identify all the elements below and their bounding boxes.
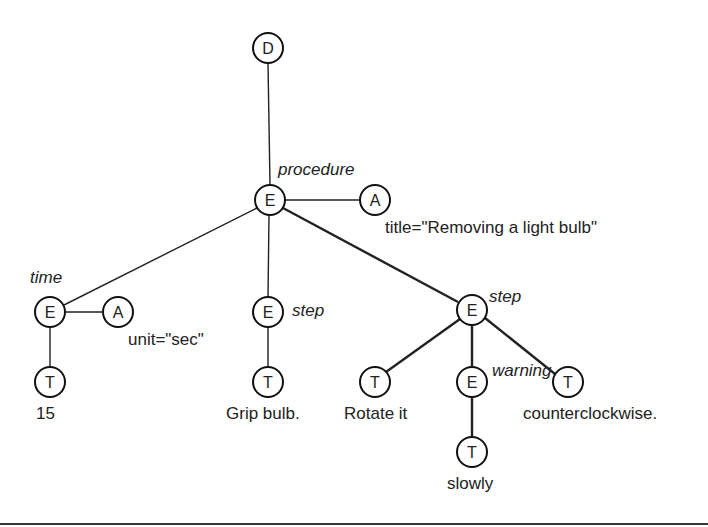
label-slowly: slowly (447, 474, 493, 494)
svg-text:T: T (563, 374, 573, 391)
nodes: D E A E A T E T E T E T T (35, 33, 583, 467)
node-element-procedure: E (255, 185, 285, 215)
edge-procedure-step1 (268, 215, 269, 297)
label-step1: step (292, 301, 324, 321)
node-element-time: E (35, 297, 65, 327)
label-procedure: procedure (278, 160, 355, 180)
svg-text:E: E (467, 374, 478, 391)
svg-text:T: T (467, 444, 477, 461)
label-counterclockwise: counterclockwise. (523, 404, 657, 424)
node-attribute-title: A (360, 185, 390, 215)
label-title-attr: title="Removing a light bulb" (385, 218, 597, 238)
svg-text:E: E (263, 304, 274, 321)
svg-text:T: T (45, 374, 55, 391)
svg-text:E: E (45, 304, 56, 321)
svg-text:A: A (113, 304, 124, 321)
edge-step2-rotate (386, 319, 460, 372)
svg-text:A: A (370, 192, 381, 209)
node-text-grip: T (253, 367, 283, 397)
label-rotate: Rotate it (344, 404, 407, 424)
node-text-rotate: T (360, 367, 390, 397)
edge-procedure-time (64, 208, 257, 305)
svg-text:T: T (370, 374, 380, 391)
edge-d-procedure (268, 63, 270, 185)
document-tree-diagram: D E A E A T E T E T E T T (0, 0, 708, 527)
node-text-slowly: T (457, 437, 487, 467)
label-time: time (30, 268, 62, 288)
svg-text:D: D (262, 40, 274, 57)
node-text-counter: T (553, 367, 583, 397)
node-element-step2: E (457, 295, 487, 325)
svg-text:E: E (467, 302, 478, 319)
bottom-rule (0, 523, 708, 525)
label-step2: step (489, 287, 521, 307)
node-attribute-unit: A (103, 297, 133, 327)
node-element-step1: E (253, 297, 283, 327)
label-grip: Grip bulb. (226, 404, 300, 424)
label-warning: warning (492, 361, 552, 381)
svg-text:E: E (265, 192, 276, 209)
node-text-15: T (35, 367, 65, 397)
node-element-warning: E (457, 367, 487, 397)
node-document: D (253, 33, 283, 63)
label-15: 15 (36, 404, 55, 424)
label-unit-attr: unit="sec" (128, 330, 204, 350)
svg-text:T: T (263, 374, 273, 391)
